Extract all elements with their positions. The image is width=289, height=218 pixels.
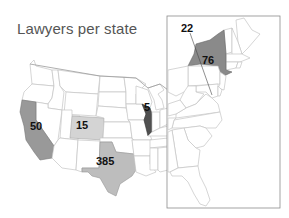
state-arizona[interactable] [52, 138, 78, 170]
state-south-dakota[interactable] [98, 92, 126, 108]
label-illinois: 5 [144, 101, 150, 113]
us-map: 50 15 385 5 76 22 [0, 0, 289, 218]
state-alabama[interactable] [158, 147, 168, 172]
label-colorado: 15 [76, 119, 88, 131]
state-washington[interactable] [30, 60, 54, 86]
state-tennessee[interactable] [150, 138, 168, 148]
label-dc: 22 [181, 22, 193, 34]
state-montana[interactable] [58, 70, 100, 94]
label-california: 50 [30, 120, 42, 132]
state-pennsylvania[interactable] [188, 66, 220, 86]
label-texas: 385 [96, 155, 114, 167]
label-new-york: 76 [202, 54, 214, 66]
state-kansas[interactable] [103, 122, 132, 138]
state-mississippi[interactable] [150, 148, 158, 170]
state-north-dakota[interactable] [99, 76, 126, 92]
state-arkansas[interactable] [132, 140, 152, 156]
